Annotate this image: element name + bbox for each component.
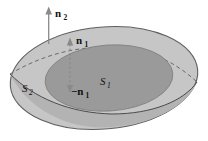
- n2-label: n: [55, 7, 61, 19]
- s2-label-subscript: 2: [29, 88, 33, 97]
- neg-n1-label: −n: [71, 85, 83, 97]
- vector-label-n2: n 2: [55, 7, 68, 22]
- surfaces-diagram: n 2 n 1 −n 1 S 1 S 2: [0, 0, 208, 141]
- s1-label-subscript: 1: [107, 81, 111, 90]
- s1-label: S: [100, 75, 106, 87]
- n2-arrowhead-icon: [45, 7, 52, 15]
- n2-label-subscript: 2: [64, 13, 68, 22]
- n1-label: n: [76, 34, 82, 46]
- figure-canvas: n 2 n 1 −n 1 S 1 S 2: [0, 0, 208, 141]
- s2-label: S: [22, 82, 28, 94]
- neg-n1-label-subscript: 1: [86, 91, 90, 100]
- n1-label-subscript: 1: [85, 40, 89, 49]
